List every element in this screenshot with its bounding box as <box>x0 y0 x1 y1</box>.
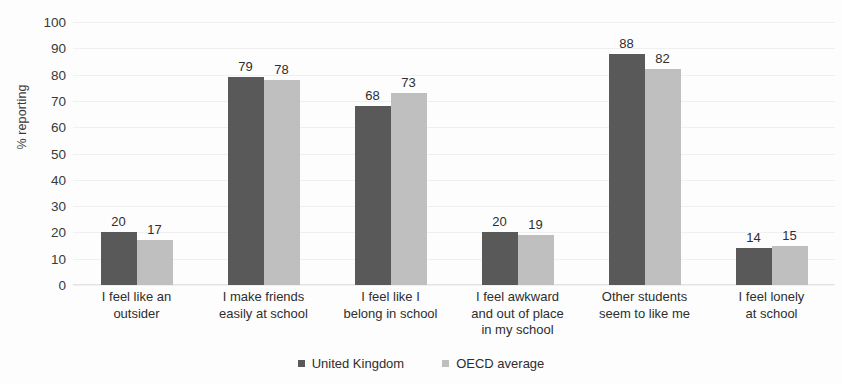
bar-chart: % reporting 1009080706050403020100 20177… <box>0 0 842 384</box>
bar[interactable] <box>518 235 554 285</box>
legend-swatch-icon <box>442 360 449 367</box>
bar-group: 7978 <box>200 22 327 285</box>
bar-value-label: 88 <box>619 37 633 50</box>
legend-swatch-icon <box>298 360 305 367</box>
legend-item[interactable]: United Kingdom <box>298 356 405 371</box>
plot-area: 201779786873201988821415 <box>73 22 835 285</box>
y-axis-tick-label: 40 <box>26 172 66 187</box>
y-axis-tick-label: 20 <box>26 225 66 240</box>
bar-value-label: 73 <box>401 76 415 89</box>
y-axis-tick-label: 50 <box>26 146 66 161</box>
bar-slot: 15 <box>772 22 808 285</box>
bar-value-label: 14 <box>746 231 760 244</box>
bar-value-label: 15 <box>782 229 796 242</box>
bar-group: 6873 <box>327 22 454 285</box>
bar[interactable] <box>482 232 518 285</box>
x-axis-category-labels: I feel like anoutsiderI make friendseasi… <box>73 289 835 345</box>
bar-value-label: 68 <box>365 89 379 102</box>
bar-value-label: 82 <box>655 52 669 65</box>
bar[interactable] <box>101 232 137 285</box>
y-axis-tick-label: 10 <box>26 251 66 266</box>
y-axis-tick-label: 70 <box>26 93 66 108</box>
y-axis-tick-label: 60 <box>26 120 66 135</box>
y-axis-tick-label: 0 <box>26 278 66 293</box>
bar-slot: 88 <box>609 22 645 285</box>
bar-slot: 73 <box>391 22 427 285</box>
bar-value-label: 20 <box>492 215 506 228</box>
bar-group: 8882 <box>581 22 708 285</box>
y-axis-tick-label: 100 <box>26 15 66 30</box>
bar[interactable] <box>736 248 772 285</box>
bar-slot: 82 <box>645 22 681 285</box>
legend-label: OECD average <box>456 356 544 371</box>
x-axis-category-label: I make friendseasily at school <box>200 289 327 322</box>
bar-slot: 79 <box>228 22 264 285</box>
bar-slot: 68 <box>355 22 391 285</box>
y-axis-tick-label: 90 <box>26 41 66 56</box>
bar-slot: 20 <box>482 22 518 285</box>
bar-slot: 19 <box>518 22 554 285</box>
x-axis-category-label: I feel like Ibelong in school <box>327 289 454 322</box>
bar-slot: 14 <box>736 22 772 285</box>
bar[interactable] <box>391 93 427 285</box>
bar-group: 1415 <box>708 22 835 285</box>
legend-item[interactable]: OECD average <box>442 356 544 371</box>
bar-slot: 17 <box>137 22 173 285</box>
x-axis-category-label: I feel awkwardand out of placein my scho… <box>454 289 581 339</box>
bar[interactable] <box>264 80 300 285</box>
bar[interactable] <box>228 77 264 285</box>
y-axis-tick-label: 80 <box>26 67 66 82</box>
bar[interactable] <box>137 240 173 285</box>
bar-value-label: 20 <box>111 215 125 228</box>
bar[interactable] <box>645 69 681 285</box>
legend-label: United Kingdom <box>312 356 405 371</box>
bar-slot: 78 <box>264 22 300 285</box>
bar[interactable] <box>355 106 391 285</box>
y-axis-tick-label: 30 <box>26 199 66 214</box>
bar-value-label: 78 <box>274 63 288 76</box>
bar-value-label: 79 <box>238 60 252 73</box>
bar-value-label: 17 <box>147 223 161 236</box>
bar[interactable] <box>772 246 808 285</box>
chart-legend: United KingdomOECD average <box>0 356 842 371</box>
gridline <box>73 285 835 286</box>
bar-value-label: 19 <box>528 218 542 231</box>
x-axis-category-label: Other studentsseem to like me <box>581 289 708 322</box>
bar-group: 2017 <box>73 22 200 285</box>
bar-group: 2019 <box>454 22 581 285</box>
x-axis-category-label: I feel like anoutsider <box>73 289 200 322</box>
y-axis-tick-labels: 1009080706050403020100 <box>18 22 66 285</box>
bar-slot: 20 <box>101 22 137 285</box>
bar[interactable] <box>609 54 645 285</box>
x-axis-category-label: I feel lonelyat school <box>708 289 835 322</box>
